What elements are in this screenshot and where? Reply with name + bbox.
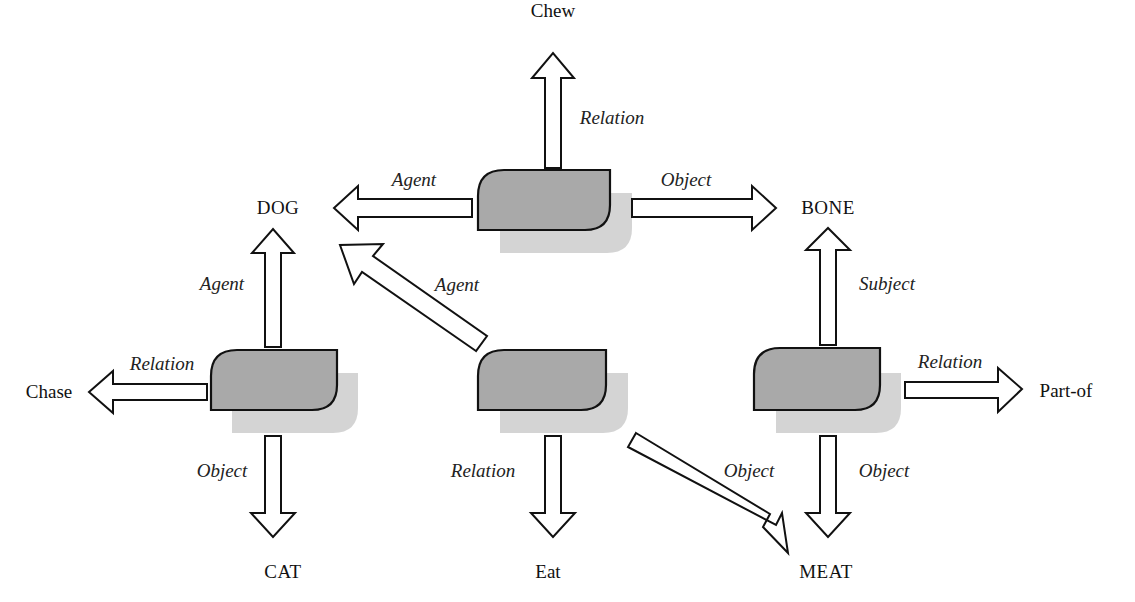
arrow-partof-subject xyxy=(806,228,850,345)
label-chase-object: Object xyxy=(197,460,248,481)
concept-cat: CAT xyxy=(264,561,301,582)
arrow-chew-agent xyxy=(334,186,472,230)
node-eat[interactable] xyxy=(478,350,606,410)
arrow-eat-object xyxy=(628,433,788,553)
label-chase-relation: Relation xyxy=(129,353,194,374)
arrow-chew-relation xyxy=(532,53,574,168)
arrow-partof-relation xyxy=(905,368,1022,412)
arrow-eat-agent xyxy=(340,244,487,351)
label-eat-agent: Agent xyxy=(433,274,480,295)
node-part-of[interactable] xyxy=(754,348,880,410)
arrow-partof-object xyxy=(806,436,850,537)
concept-part-of: Part-of xyxy=(1040,380,1093,401)
arrow-chew-object xyxy=(632,186,776,230)
label-partof-subject: Subject xyxy=(859,273,916,294)
arrow-eat-relation xyxy=(531,436,575,537)
label-eat-relation: Relation xyxy=(450,460,515,481)
concept-meat: MEAT xyxy=(799,561,853,582)
concept-bone: BONE xyxy=(801,197,855,218)
label-partof-relation: Relation xyxy=(917,351,982,372)
concept-eat: Eat xyxy=(535,561,561,582)
label-eat-object: Object xyxy=(724,460,775,481)
label-chew-agent: Agent xyxy=(390,169,437,190)
arrow-chase-object xyxy=(251,436,295,537)
concept-chase: Chase xyxy=(26,381,72,402)
node-chew[interactable] xyxy=(478,170,610,230)
concept-dog: DOG xyxy=(257,197,300,218)
arrow-chase-agent xyxy=(252,229,294,347)
arrow-chase-relation xyxy=(89,371,207,413)
label-partof-object: Object xyxy=(859,460,910,481)
label-chase-agent: Agent xyxy=(198,273,245,294)
node-chase[interactable] xyxy=(211,350,337,410)
label-chew-object: Object xyxy=(661,169,712,190)
semantic-network-diagram: Chew DOG BONE Chase Part-of CAT Eat MEAT… xyxy=(0,0,1135,602)
label-chew-relation: Relation xyxy=(579,107,644,128)
concept-chew: Chew xyxy=(531,0,576,21)
